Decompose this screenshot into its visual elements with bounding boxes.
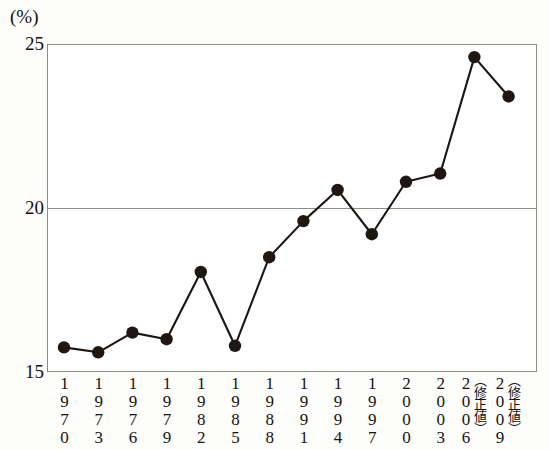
x-axis-tick-labels: 1970197319761979198219851988199119941997… — [47, 374, 537, 450]
x-axis-label-note: （修正値） — [473, 374, 486, 434]
x-axis-label-year: 2003 — [432, 374, 449, 446]
x-axis-label: 1985 — [227, 374, 243, 450]
x-axis-label-year: 1973 — [90, 374, 107, 446]
x-axis-label: 2000 — [398, 374, 414, 450]
x-axis-label: 1976 — [124, 374, 140, 450]
chart-root: (%) 25 20 15 197019731976197919821985198… — [0, 0, 550, 450]
x-axis-label-year: 1979 — [159, 374, 176, 446]
plot-frame — [47, 44, 537, 372]
x-axis-label: 1973 — [90, 374, 106, 450]
x-axis-label: 1994 — [330, 374, 346, 450]
x-axis-label-year: 1982 — [193, 374, 210, 446]
x-axis-label-year: 1970 — [56, 374, 73, 446]
x-axis-label: 1982 — [193, 374, 209, 450]
y-axis-tick-25: 25 — [0, 34, 44, 53]
x-axis-label-year: 1991 — [295, 374, 312, 446]
x-axis-label: 1970 — [56, 374, 72, 450]
x-axis-label-year: 1994 — [330, 374, 347, 446]
y-axis-tick-20: 20 — [0, 198, 44, 217]
y-axis-tick-labels: 25 20 15 — [0, 0, 44, 450]
x-axis-label: 1991 — [295, 374, 311, 450]
y-axis-tick-15: 15 — [0, 362, 44, 381]
x-axis-label-year: 1976 — [124, 374, 141, 446]
x-axis-label: 1979 — [159, 374, 175, 450]
x-axis-label: 1988 — [261, 374, 277, 450]
x-axis-label: 2003 — [432, 374, 448, 450]
x-axis-label-year: 1988 — [261, 374, 278, 446]
x-axis-label-note: （修正値） — [508, 374, 521, 434]
x-axis-label: 2009（修正値） — [492, 374, 526, 450]
gridline-20 — [48, 208, 536, 209]
x-axis-label: 1997 — [364, 374, 380, 450]
x-axis-label-year: 2000 — [398, 374, 415, 446]
x-axis-label: 2006（修正値） — [457, 374, 491, 450]
x-axis-label-year: 1985 — [227, 374, 244, 446]
x-axis-label-year: 1997 — [364, 374, 381, 446]
